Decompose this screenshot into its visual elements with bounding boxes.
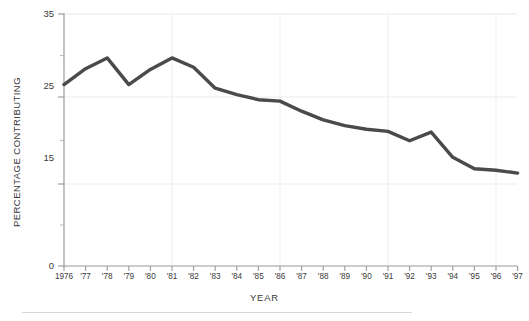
x-tick-label: '97 bbox=[509, 272, 527, 281]
y-axis bbox=[58, 13, 64, 267]
x-tick-label: 1976 bbox=[51, 272, 77, 281]
gridlines bbox=[64, 14, 517, 266]
x-tick-label: '84 bbox=[228, 272, 246, 281]
x-tick-label: '95 bbox=[465, 272, 483, 281]
x-tick-label: '87 bbox=[293, 272, 311, 281]
x-tick-label: '91 bbox=[379, 272, 397, 281]
x-tick-label: '82 bbox=[185, 272, 203, 281]
x-axis-label: YEAR bbox=[0, 292, 529, 303]
x-tick-label: '94 bbox=[444, 272, 462, 281]
y-tick-label: 25 bbox=[26, 80, 54, 91]
chart-container: PERCENTAGE CONTRIBUTING YEAR 0152535 197… bbox=[0, 0, 529, 321]
y-tick-label: 15 bbox=[26, 152, 54, 163]
data-series-line bbox=[64, 58, 518, 173]
x-tick-label: '85 bbox=[249, 272, 267, 281]
x-tick-label: '90 bbox=[357, 272, 375, 281]
x-tick-label: '92 bbox=[401, 272, 419, 281]
footer-divider bbox=[22, 312, 412, 313]
x-tick-label: '93 bbox=[422, 272, 440, 281]
y-tick-label: 35 bbox=[26, 8, 54, 19]
x-tick-label: '80 bbox=[141, 272, 159, 281]
x-tick-label: '83 bbox=[206, 272, 224, 281]
x-tick-label: '89 bbox=[336, 272, 354, 281]
y-tick-label: 0 bbox=[26, 260, 54, 271]
x-tick-label: '86 bbox=[271, 272, 289, 281]
x-tick-label: '78 bbox=[98, 272, 116, 281]
x-tick-label: '77 bbox=[77, 272, 95, 281]
y-axis-label: PERCENTAGE CONTRIBUTING bbox=[6, 62, 26, 242]
x-tick-label: '88 bbox=[314, 272, 332, 281]
x-axis bbox=[63, 266, 518, 271]
y-axis-label-text: PERCENTAGE CONTRIBUTING bbox=[11, 77, 22, 227]
x-tick-label: '79 bbox=[120, 272, 138, 281]
x-tick-label: '81 bbox=[163, 272, 181, 281]
x-tick-label: '96 bbox=[487, 272, 505, 281]
